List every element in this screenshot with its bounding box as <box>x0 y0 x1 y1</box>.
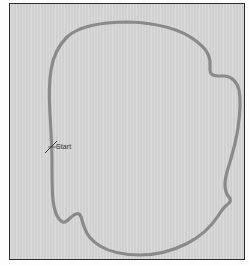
start-label: Start <box>56 143 71 151</box>
track-outline-path <box>49 22 240 255</box>
track-figure: Start <box>0 0 250 266</box>
figure-frame: Start <box>9 3 245 260</box>
track-outline-svg <box>10 4 244 259</box>
